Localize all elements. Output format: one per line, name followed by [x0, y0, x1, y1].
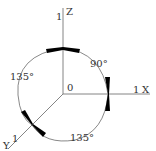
arrow-left-lower-icon: [32, 124, 46, 137]
x-unit-label: 1: [133, 84, 139, 95]
y-unit-label: 1: [12, 133, 18, 144]
angle-y-x-label: 135°: [70, 132, 94, 143]
arrow-top-left-icon: [46, 47, 63, 53]
x-axis-label: X: [142, 84, 150, 95]
angle-z-y-label: 135°: [10, 71, 34, 82]
z-axis-label: Z: [66, 6, 73, 17]
z-unit-label: 1: [56, 11, 62, 22]
arrow-top-right-icon: [63, 47, 80, 53]
y-axis-label: Y: [2, 140, 10, 151]
origin-label: 0: [67, 82, 73, 93]
angle-z-x-label: 90°: [90, 58, 108, 69]
axis-angle-diagram: 1 Z 1 X 1 Y 0 90° 135° 135°: [0, 0, 156, 151]
arrow-left-upper-icon: [21, 110, 33, 125]
